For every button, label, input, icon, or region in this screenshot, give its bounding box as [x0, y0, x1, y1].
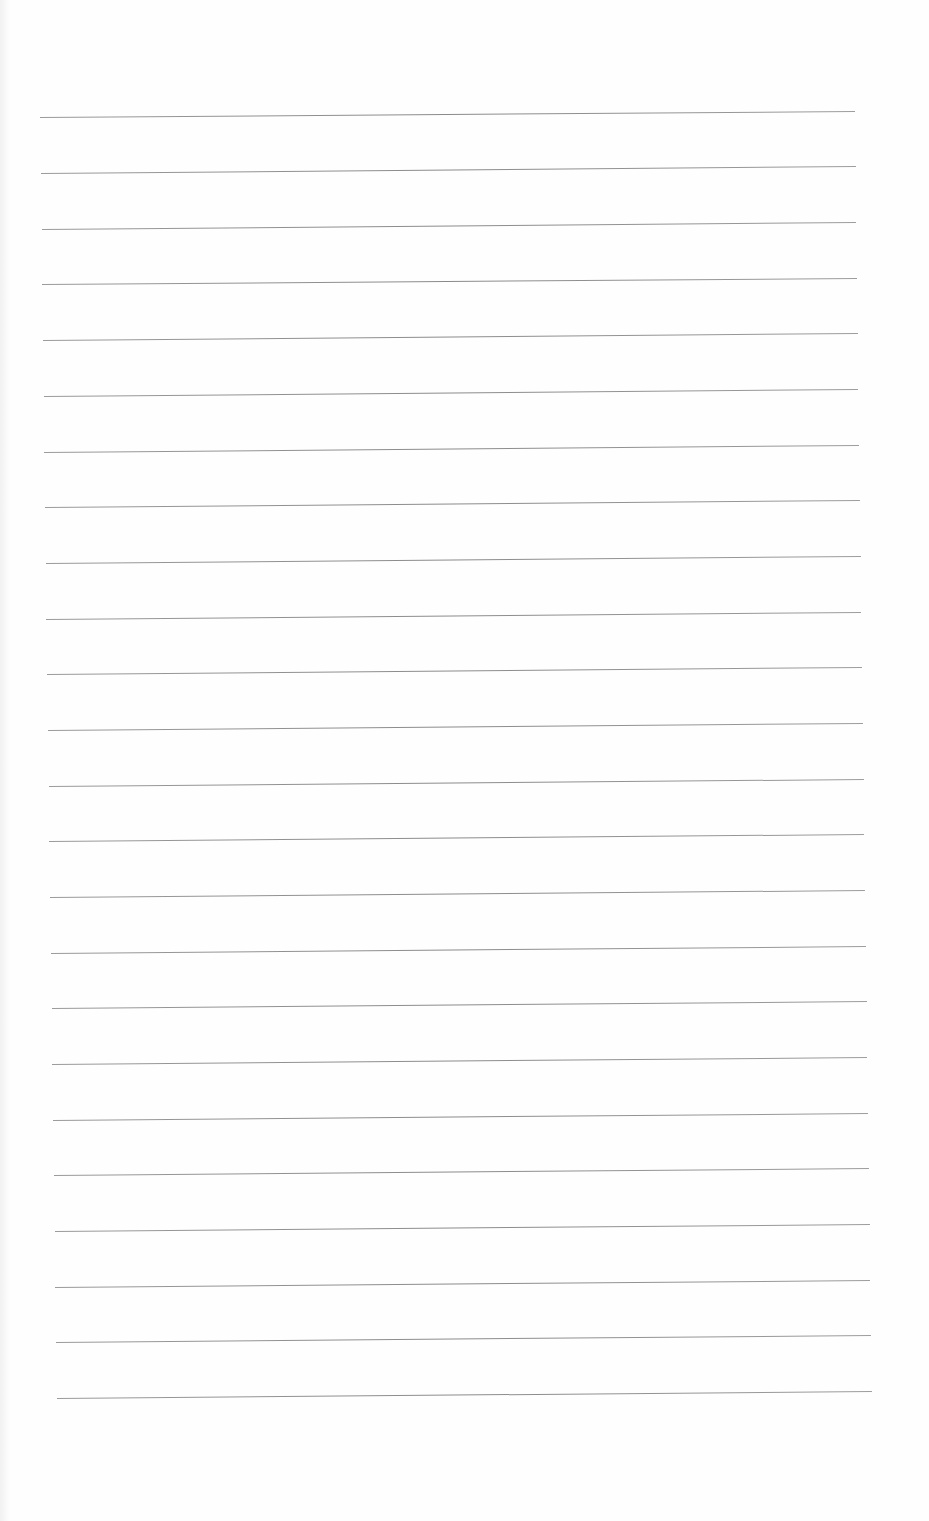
ruled-line — [44, 445, 859, 453]
bleed-through-mark — [145, 2, 265, 16]
ruled-line — [48, 723, 863, 731]
ruled-line — [42, 278, 857, 285]
ruled-line — [49, 779, 864, 787]
ruled-line — [42, 222, 856, 230]
ruled-line — [44, 389, 858, 397]
ruled-line — [40, 111, 855, 118]
ruled-line — [51, 946, 866, 954]
ruled-line — [55, 1224, 870, 1232]
ruled-line — [50, 890, 865, 898]
ruled-line — [56, 1335, 871, 1343]
ruled-line — [52, 1001, 867, 1009]
lined-paper-page — [0, 0, 929, 1521]
bleed-through-mark — [500, 2, 630, 16]
ruled-line — [53, 1113, 868, 1121]
ruled-line — [52, 1057, 867, 1065]
ruled-line — [46, 612, 861, 620]
ruled-line — [43, 333, 858, 341]
ruled-line — [54, 1168, 869, 1176]
ruled-line — [45, 500, 860, 508]
ruled-line — [57, 1391, 872, 1399]
ruled-line — [55, 1280, 870, 1288]
bleed-through-mark — [280, 2, 380, 16]
scan-edge-shadow — [0, 0, 10, 1521]
ruled-line — [49, 834, 864, 842]
ruled-line — [41, 166, 856, 174]
ruled-line — [47, 667, 862, 675]
ruled-line — [46, 556, 861, 564]
